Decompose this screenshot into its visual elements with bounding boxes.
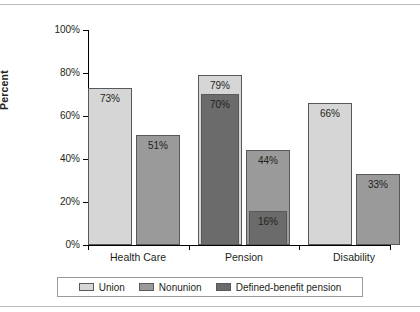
legend-swatch: [139, 283, 154, 291]
x-axis-tick: [88, 245, 89, 250]
bar-value-label: 70%: [202, 99, 238, 110]
bar-value-label: 44%: [247, 155, 289, 166]
y-axis-tick-label: 40%: [34, 154, 80, 164]
plot-area: 73%51%79%70%44%16%66%33%: [88, 30, 390, 245]
bar: 70%: [201, 94, 239, 245]
legend-item: Union: [79, 282, 125, 293]
bar-value-label: 79%: [199, 80, 241, 91]
x-axis-tick: [189, 245, 190, 250]
y-axis-tick-label: 0%: [34, 240, 80, 250]
legend-label: Nonunion: [159, 282, 202, 293]
bar: 73%: [88, 88, 132, 245]
y-axis-tick-label: 20%: [34, 197, 80, 207]
x-axis-category-label: Health Care: [88, 251, 188, 263]
legend-label: Defined-benefit pension: [236, 282, 342, 293]
y-axis-title: Percent: [0, 70, 10, 110]
bar: 51%: [136, 135, 180, 245]
bar-value-label: 51%: [137, 140, 179, 151]
y-axis-tick-label: 100%: [34, 25, 80, 35]
y-axis-tick-label: 80%: [34, 68, 80, 78]
bar-value-label: 33%: [357, 179, 399, 190]
page-rule-bottom: [0, 306, 420, 307]
y-axis-tick-label: 60%: [34, 111, 80, 121]
page-rule-top: [0, 4, 420, 5]
bar-value-label: 16%: [250, 216, 286, 227]
bar: 33%: [356, 174, 400, 245]
legend-swatch: [216, 283, 231, 291]
bar: 66%: [308, 103, 352, 245]
legend-label: Union: [99, 282, 125, 293]
legend-swatch: [79, 283, 94, 291]
legend-item: Defined-benefit pension: [216, 282, 342, 293]
bar-value-label: 73%: [89, 93, 131, 104]
x-axis-tick: [390, 245, 391, 250]
bar: 16%: [249, 211, 287, 245]
x-axis-category-label: Disability: [304, 251, 404, 263]
x-axis-category-label: Pension: [194, 251, 294, 263]
legend-item: Nonunion: [139, 282, 202, 293]
x-axis-line: [88, 245, 390, 246]
bar-value-label: 66%: [309, 108, 351, 119]
bar-chart-figure: Percent 100%80%60%40%20%0% 73%51%79%70%4…: [0, 0, 420, 312]
x-axis-tick: [299, 245, 300, 250]
chart-legend: UnionNonunionDefined-benefit pension: [57, 277, 363, 297]
